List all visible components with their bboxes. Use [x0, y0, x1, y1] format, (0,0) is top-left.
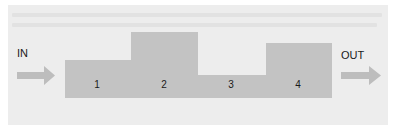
input-label: IN [17, 48, 28, 59]
output-label: OUT [341, 50, 364, 61]
diagram-canvas: IN OUT 1 2 3 4 [0, 0, 396, 131]
flow-profile-graphic [0, 0, 396, 131]
block-label-4: 4 [295, 80, 301, 90]
input-arrow-icon [17, 66, 55, 85]
output-arrow-icon [341, 66, 381, 85]
block-label-1: 1 [94, 80, 100, 90]
block-label-3: 3 [228, 80, 234, 90]
block-profile-shape [65, 32, 332, 98]
block-label-2: 2 [161, 80, 167, 90]
